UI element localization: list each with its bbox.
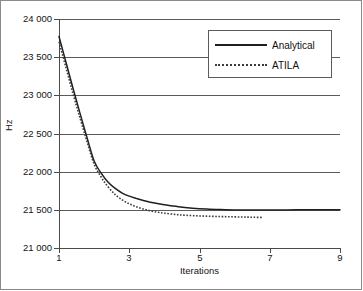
chart-legend: Analytical ATILA [208, 30, 332, 78]
y-tick-label: 23 500 [6, 52, 52, 62]
x-tick-label: 1 [47, 252, 71, 263]
gridline [59, 172, 340, 173]
gridline [59, 210, 340, 211]
y-axis-title: Hz [3, 119, 14, 131]
y-tick-label: 24 000 [6, 14, 52, 24]
legend-item-atila: ATILA [215, 58, 299, 72]
x-tick-label: 5 [188, 252, 212, 263]
legend-item-analytical: Analytical [215, 38, 315, 52]
x-tick-label: 3 [117, 252, 141, 263]
gridline [59, 95, 340, 96]
legend-label-atila: ATILA [272, 60, 299, 71]
y-tick-label: 21 500 [6, 205, 52, 215]
y-tick-label: 21 000 [6, 243, 52, 253]
legend-label-analytical: Analytical [272, 40, 315, 51]
legend-swatch-solid-line-icon [215, 40, 267, 50]
chart-figure: 21 00021 50022 00022 50023 00023 50024 0… [0, 0, 363, 291]
y-axis-line [59, 19, 60, 249]
x-axis-title: Iterations [59, 265, 340, 276]
x-tick-label: 9 [328, 252, 352, 263]
gridline [59, 134, 340, 135]
legend-swatch-dotted-line-icon [215, 60, 267, 70]
y-tick-label: 22 000 [6, 167, 52, 177]
gridline [59, 19, 340, 20]
x-axis-line [59, 248, 341, 249]
x-tick-label: 7 [258, 252, 282, 263]
y-tick-label: 23 000 [6, 90, 52, 100]
